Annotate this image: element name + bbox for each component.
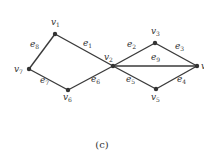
node-label-v2: v2: [104, 52, 113, 63]
graph-diagram: e1e2e3e4e5e6e7e8e9v1v2v3v4v5v6v7 (c): [0, 0, 204, 157]
node-label-v5: v5: [151, 92, 160, 103]
edge-label-e1: e1: [83, 38, 92, 49]
labels-layer: e1e2e3e4e5e6e7e8e9v1v2v3v4v5v6v7: [14, 17, 204, 103]
figure-caption: (c): [95, 139, 109, 150]
edge-label-e9: e9: [151, 52, 160, 63]
node-v5: [154, 87, 158, 91]
edge-label-e7: e7: [40, 75, 49, 86]
node-v1: [53, 32, 57, 36]
node-label-v4: v4: [201, 61, 204, 72]
edge-label-e4: e4: [177, 74, 186, 85]
node-label-v3: v3: [151, 26, 160, 37]
node-v7: [27, 67, 31, 71]
node-label-v6: v6: [63, 92, 72, 103]
edge-label-e5: e5: [126, 74, 135, 85]
edge-label-e8: e8: [30, 39, 39, 50]
node-label-v7: v7: [14, 64, 23, 75]
nodes-layer: [27, 32, 199, 92]
node-label-v1: v1: [51, 17, 60, 28]
node-v3: [153, 41, 157, 45]
edges-layer: [29, 34, 197, 90]
node-v4: [195, 64, 199, 68]
edge-label-e2: e2: [127, 39, 136, 50]
edge-label-e6: e6: [91, 74, 100, 85]
node-v2: [111, 64, 115, 68]
edge-label-e3: e3: [175, 41, 184, 52]
